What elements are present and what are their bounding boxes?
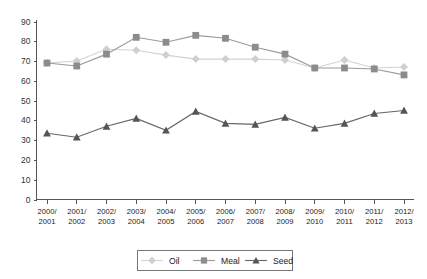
x-tick-label: 2005/2006 bbox=[186, 207, 206, 226]
x-tick-label: 2008/2009 bbox=[275, 207, 295, 226]
data-point-square bbox=[252, 44, 259, 51]
series-group bbox=[43, 32, 408, 141]
data-point-square bbox=[311, 65, 318, 72]
data-point-square bbox=[222, 35, 229, 42]
data-point-square bbox=[44, 60, 51, 67]
x-tick-label: 2009/2010 bbox=[305, 207, 325, 226]
y-tick-label: 0 bbox=[26, 195, 31, 205]
data-point-triangle bbox=[192, 108, 200, 115]
y-tick-label: 40 bbox=[21, 115, 31, 125]
x-tick-label: 2010/2011 bbox=[335, 207, 355, 226]
data-point-diamond bbox=[132, 46, 140, 54]
data-point-diamond bbox=[251, 55, 259, 63]
line-chart: 0102030405060708090 2000/20012001/200220… bbox=[0, 0, 427, 279]
x-tick-label: 2012/2013 bbox=[394, 207, 414, 226]
data-point-triangle bbox=[132, 115, 140, 122]
data-point-diamond bbox=[192, 55, 200, 63]
chart-canvas: 0102030405060708090 2000/20012001/200220… bbox=[0, 0, 427, 279]
data-point-triangle bbox=[281, 114, 289, 121]
y-tick-group: 0102030405060708090 bbox=[21, 17, 36, 205]
legend-label: Seed bbox=[273, 256, 293, 266]
legend-label: Oil bbox=[169, 256, 180, 266]
y-tick-label: 20 bbox=[21, 155, 31, 165]
data-point-square bbox=[282, 51, 289, 58]
x-tick-label: 2003/2004 bbox=[127, 207, 147, 226]
data-point-square bbox=[103, 51, 110, 58]
x-tick-label: 2002/2003 bbox=[97, 207, 117, 226]
x-axis: 2000/20012001/20022002/20032003/20042004… bbox=[37, 200, 415, 226]
data-point-diamond bbox=[341, 56, 349, 64]
chart-legend: OilMealSeed bbox=[138, 251, 294, 271]
data-point-triangle bbox=[162, 126, 170, 133]
data-point-square bbox=[192, 32, 199, 39]
x-tick-label: 2011/2012 bbox=[365, 207, 384, 226]
series-seed bbox=[43, 107, 408, 141]
y-tick-label: 70 bbox=[21, 56, 31, 66]
data-point-square bbox=[201, 257, 207, 263]
x-tick-label: 2004/2005 bbox=[156, 207, 176, 226]
y-tick-label: 30 bbox=[21, 135, 31, 145]
data-point-square bbox=[73, 63, 80, 70]
data-point-diamond bbox=[162, 51, 170, 59]
data-point-triangle bbox=[341, 119, 349, 126]
x-tick-label: 2007/2008 bbox=[246, 207, 266, 226]
data-point-square bbox=[401, 72, 408, 79]
data-point-triangle bbox=[400, 107, 408, 114]
data-point-square bbox=[341, 65, 348, 72]
x-tick-label: 2001/2002 bbox=[67, 207, 87, 226]
data-point-triangle bbox=[43, 129, 51, 136]
data-point-square bbox=[133, 34, 140, 41]
y-tick-label: 80 bbox=[21, 36, 31, 46]
y-tick-label: 50 bbox=[21, 96, 31, 106]
y-axis: 0102030405060708090 bbox=[21, 17, 36, 205]
legend-label: Meal bbox=[221, 256, 240, 266]
y-tick-label: 60 bbox=[21, 76, 31, 86]
y-tick-label: 10 bbox=[21, 175, 31, 185]
x-tick-label: 2006/2007 bbox=[216, 207, 236, 226]
y-tick-label: 90 bbox=[21, 17, 31, 27]
x-tick-label: 2000/2001 bbox=[37, 207, 57, 226]
data-point-diamond bbox=[222, 55, 230, 63]
data-point-square bbox=[163, 39, 170, 46]
x-tick-group: 2000/20012001/20022002/20032003/20042004… bbox=[37, 200, 414, 226]
data-point-diamond bbox=[400, 63, 408, 71]
data-point-square bbox=[371, 66, 378, 73]
